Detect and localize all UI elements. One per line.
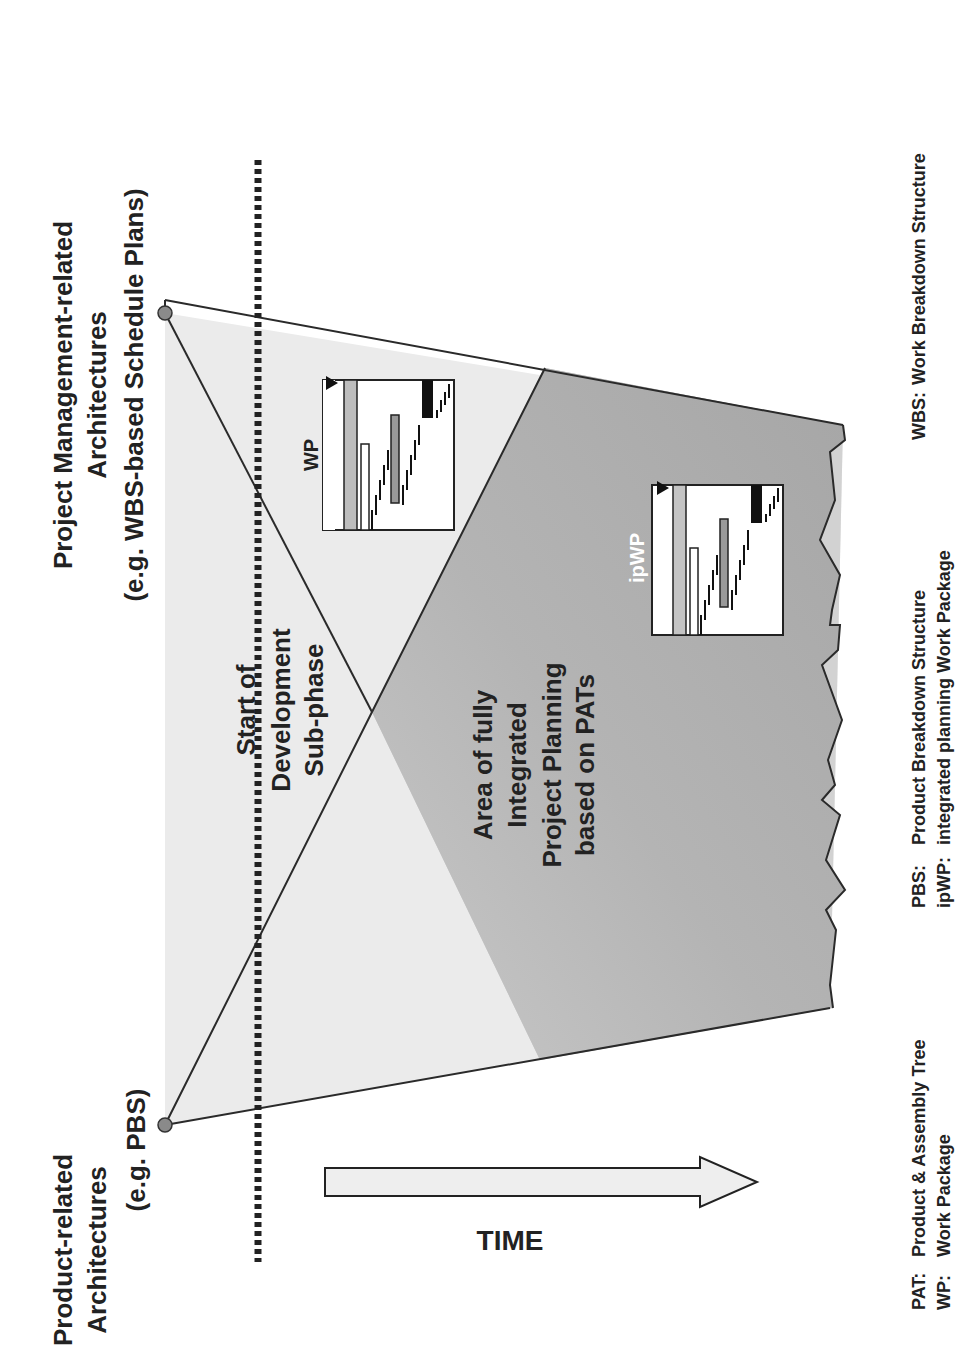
wp-label: WP xyxy=(300,439,322,471)
legend-pbs-abbr: PBS: xyxy=(909,865,929,908)
legend-pbs-text: Product Breakdown Structure xyxy=(909,590,929,845)
legend-wbs-text: Work Breakdown Structure xyxy=(909,153,929,385)
milestone-label-line3: Sub-phase xyxy=(299,644,329,777)
ipwp-label: ipWP xyxy=(626,533,648,583)
time-label: TIME xyxy=(477,1225,544,1256)
time-arrow xyxy=(325,1157,757,1207)
milestone-label-line1: Start of xyxy=(231,664,261,755)
pbs-label-line3: (e.g. PBS) xyxy=(121,1089,151,1212)
wbs-label-line1: Project Management-related xyxy=(48,221,78,569)
legend-ipwp-text: integrated planning Work Package xyxy=(934,550,954,845)
pbs-node xyxy=(158,1118,172,1132)
pbs-label-line2: Architectures xyxy=(82,1166,112,1334)
legend-wbs-abbr: WBS: xyxy=(909,392,929,440)
area-label-line2: Integrated xyxy=(502,702,532,828)
milestone-label-line2: Development xyxy=(266,628,296,792)
wbs-node xyxy=(158,306,172,320)
area-label-line4: based on PATs xyxy=(570,674,600,856)
diagram-canvas: Product-related Architectures (e.g. PBS)… xyxy=(0,0,963,1366)
pbs-label-line1: Product-related xyxy=(48,1154,78,1346)
legend-pat-abbr: PAT: xyxy=(909,1273,929,1310)
legend-ipwp-abbr: ipWP: xyxy=(934,857,954,908)
wbs-label-line2: Architectures xyxy=(82,311,112,479)
ipwp-gantt-icon xyxy=(652,481,783,635)
legend-wp-text: Work Package xyxy=(934,1134,954,1257)
wbs-label-line3: (e.g. WBS-based Schedule Plans) xyxy=(119,188,149,601)
legend-wp-abbr: WP: xyxy=(934,1275,954,1310)
legend-pat-text: Product & Assembly Tree xyxy=(909,1040,929,1257)
area-label-line3: Project Planning xyxy=(537,662,567,867)
wp-gantt-icon xyxy=(323,376,454,530)
area-label-line1: Area of fully xyxy=(468,689,498,840)
